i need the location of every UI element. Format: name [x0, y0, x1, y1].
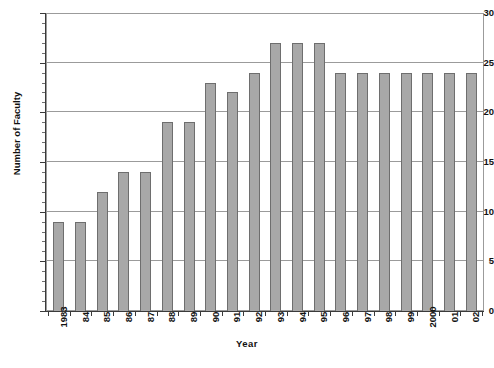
y-axis-major-tick — [40, 63, 45, 64]
bar-slot — [113, 13, 135, 311]
x-axis-tick-label: 94 — [298, 312, 308, 323]
x-axis-tick-label: 84 — [81, 312, 91, 323]
x-axis-tick-label: 85 — [102, 312, 112, 323]
y-axis-minor-tick — [42, 53, 45, 54]
x-axis-tick-label: 96 — [341, 312, 351, 323]
bar-slot — [308, 13, 330, 311]
y-axis-major-tick — [40, 13, 45, 14]
bar — [97, 192, 108, 311]
bar — [184, 122, 195, 311]
y-axis-minor-tick — [42, 132, 45, 133]
y-axis-tick-label: 25 — [458, 58, 494, 68]
y-axis-minor-tick — [42, 241, 45, 242]
bar-chart-figure: Number of Faculty 051015202530 198384858… — [0, 0, 494, 368]
y-axis-minor-tick — [42, 33, 45, 34]
x-axis-tick-label: 88 — [167, 312, 177, 323]
y-axis-minor-tick — [42, 182, 45, 183]
y-axis-tick-label: 15 — [458, 157, 494, 167]
bar-slot — [352, 13, 374, 311]
bar — [357, 73, 368, 311]
y-axis-tick-label: 5 — [458, 256, 494, 266]
y-axis-minor-tick — [42, 92, 45, 93]
x-axis-tick-label: 1983 — [59, 306, 69, 327]
bar-slot — [243, 13, 265, 311]
bar — [53, 222, 64, 311]
y-axis-title: Number of Faculty — [11, 74, 22, 194]
y-axis-minor-tick — [42, 43, 45, 44]
bar-slot — [395, 13, 417, 311]
x-axis-tick-label: 98 — [384, 312, 394, 323]
x-axis-tick-label: 97 — [363, 312, 373, 323]
bar — [227, 92, 238, 311]
y-axis-major-tick — [40, 112, 45, 113]
y-axis-minor-tick — [42, 291, 45, 292]
y-axis-minor-tick — [42, 83, 45, 84]
bar-slot — [135, 13, 157, 311]
bar — [444, 73, 455, 311]
plot-area — [46, 13, 484, 311]
y-axis-minor-tick — [42, 192, 45, 193]
y-axis-minor-tick — [42, 73, 45, 74]
y-axis-minor-tick — [42, 152, 45, 153]
y-axis-minor-tick — [42, 271, 45, 272]
y-axis-minor-tick — [42, 281, 45, 282]
y-axis-minor-tick — [42, 23, 45, 24]
bar — [140, 172, 151, 311]
y-axis-minor-tick — [42, 232, 45, 233]
bar-slot — [48, 13, 70, 311]
y-axis-tick-label: 10 — [458, 207, 494, 217]
x-axis-tick-label: 90 — [211, 312, 221, 323]
bar — [422, 73, 433, 311]
bar-slot — [157, 13, 179, 311]
bar — [335, 73, 346, 311]
y-axis-minor-tick — [42, 122, 45, 123]
x-axis-title: Year — [0, 338, 494, 349]
x-axis-tick-label: 89 — [189, 312, 199, 323]
bar-slot — [91, 13, 113, 311]
y-axis-major-tick — [40, 311, 45, 312]
bar — [249, 73, 260, 311]
x-axis-tick-label: 95 — [319, 312, 329, 323]
x-axis-tick-label: 93 — [276, 312, 286, 323]
y-axis-line — [45, 13, 46, 312]
bar-slot — [265, 13, 287, 311]
bar-slot — [374, 13, 396, 311]
bar-slot — [200, 13, 222, 311]
y-axis-minor-tick — [42, 301, 45, 302]
bar-series — [46, 13, 484, 311]
y-axis-major-tick — [40, 162, 45, 163]
y-axis-major-tick — [40, 212, 45, 213]
y-axis-tick-label: 20 — [458, 107, 494, 117]
bar-slot — [287, 13, 309, 311]
bar-slot — [178, 13, 200, 311]
bar — [205, 83, 216, 311]
x-axis-tick-label: 91 — [232, 312, 242, 323]
bar-slot — [70, 13, 92, 311]
x-axis-tick-label: 01 — [450, 312, 460, 323]
y-axis-minor-tick — [42, 202, 45, 203]
y-axis-major-tick — [40, 261, 45, 262]
bar — [118, 172, 129, 311]
bar — [162, 122, 173, 311]
y-axis-minor-tick — [42, 172, 45, 173]
x-axis-tick-label: 87 — [146, 312, 156, 323]
y-axis-tick-label: 30 — [458, 8, 494, 18]
x-axis-tick-label: 99 — [406, 312, 416, 323]
y-axis-minor-tick — [42, 142, 45, 143]
figure-caption-clipped — [0, 361, 494, 368]
bar — [314, 43, 325, 311]
y-axis-minor-tick — [42, 102, 45, 103]
x-axis-tick-label: 2000 — [428, 306, 438, 327]
bar — [75, 222, 86, 311]
x-axis-tick-label: 92 — [254, 312, 264, 323]
bar-slot — [330, 13, 352, 311]
x-axis-tick-label: 86 — [124, 312, 134, 323]
bar — [270, 43, 281, 311]
bar-slot — [222, 13, 244, 311]
bar — [379, 73, 390, 311]
bar-slot — [417, 13, 439, 311]
bar — [292, 43, 303, 311]
x-axis-tick-label: 02 — [471, 312, 481, 323]
y-axis-minor-tick — [42, 251, 45, 252]
bar — [401, 73, 412, 311]
